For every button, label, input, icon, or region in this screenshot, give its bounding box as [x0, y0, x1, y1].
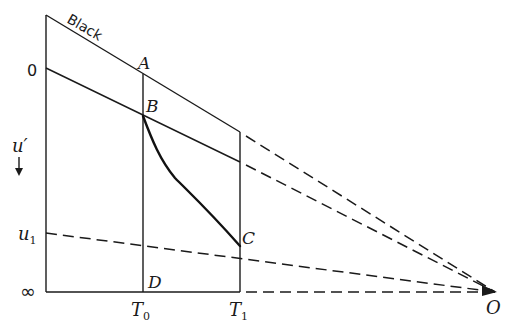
label-T1: T1 [229, 299, 248, 323]
label-A: A [136, 53, 150, 73]
convergence-arrowhead [482, 285, 497, 296]
zero-line-extension [246, 165, 495, 292]
label-infinity: ∞ [20, 280, 36, 302]
down-arrow-icon [15, 157, 23, 176]
black-line-extension [246, 136, 495, 292]
label-B: B [145, 96, 159, 116]
label-O: O [486, 297, 501, 318]
diagram: Black 0 u′ u1 ∞ A B C D O T0 T1 [0, 0, 510, 329]
label-u1: u1 [18, 223, 37, 247]
label-zero: 0 [27, 61, 37, 80]
label-u-prime: u′ [12, 135, 28, 156]
label-C: C [242, 228, 255, 248]
curve-B-to-C [143, 116, 240, 246]
u1-line [46, 233, 495, 292]
cropped-caption [180, 322, 390, 329]
label-D: D [147, 272, 162, 292]
label-T0: T0 [131, 299, 150, 323]
